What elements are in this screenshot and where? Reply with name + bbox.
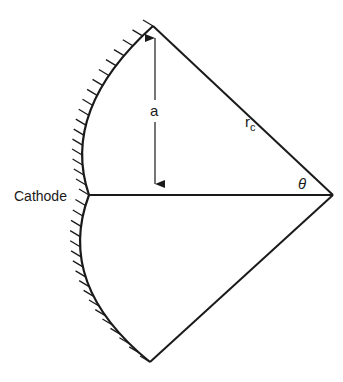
- radius-subscript: c: [250, 121, 256, 133]
- lower-radius-line: [150, 195, 333, 362]
- angle-label: θ: [298, 175, 306, 192]
- cathode-label: Cathode: [14, 188, 67, 204]
- upper-radius-line: [153, 26, 333, 195]
- radius-label: rc: [245, 113, 256, 133]
- height-label: a: [150, 102, 159, 119]
- cathode-geometry-diagram: Cathode a rc θ: [0, 0, 343, 382]
